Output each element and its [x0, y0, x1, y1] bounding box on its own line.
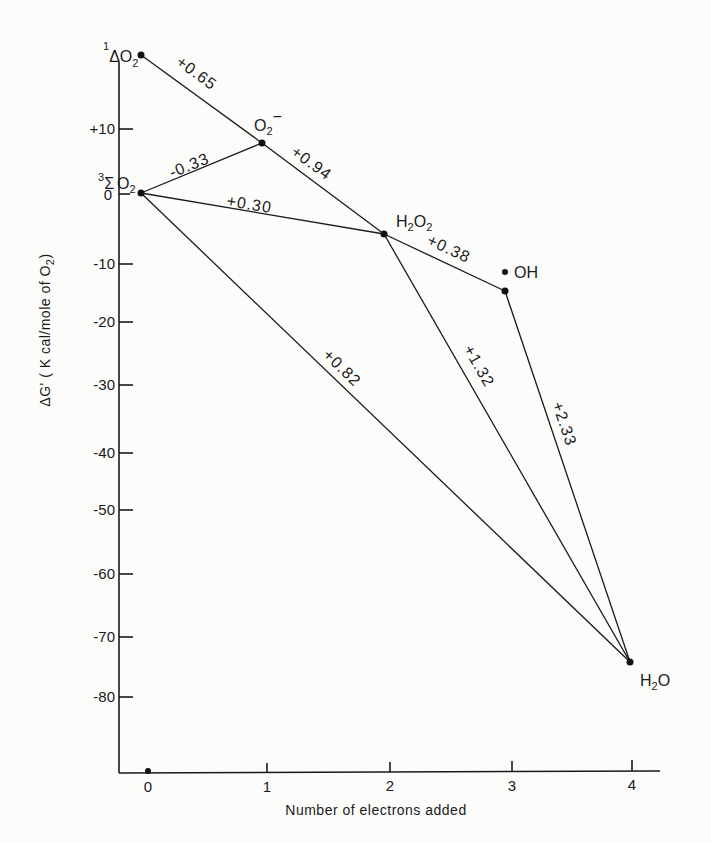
node-h2o — [627, 659, 634, 666]
edge-label-030: +0.30 — [226, 192, 274, 216]
x-tick-labels: 0 1 2 3 4 — [144, 776, 636, 795]
y-tick-label: -40 — [93, 444, 115, 461]
y-tick-label: -10 — [93, 255, 115, 272]
edge-labels: +0.65 -0.33 +0.94 +0.30 +0.38 +0.82 +1.3… — [167, 53, 580, 448]
species-labels: 1ΔO2 3ΣO2 O2− H2O2 OH H2O — [98, 40, 670, 692]
y-ticks — [119, 129, 133, 697]
x-tick-label: 2 — [386, 777, 394, 794]
edge-label-033: -0.33 — [167, 149, 212, 180]
y-axis-title-close: ) — [37, 253, 53, 258]
y-tick-label: -50 — [93, 501, 115, 518]
label-h2o: H2O — [640, 672, 670, 692]
edge-superoxide-to-h2o2 — [262, 143, 384, 234]
label-superoxide: O2− — [254, 108, 282, 137]
y-tick-label: -80 — [93, 688, 115, 705]
y-tick-label: -70 — [93, 628, 115, 645]
label-triplet-o2: 3ΣO2 — [98, 171, 136, 195]
label-oh: OH — [514, 264, 538, 281]
free-energy-diagram: +10 0 -10 -20 -30 -40 -50 -60 -70 -80 0 … — [0, 0, 711, 843]
svg-text:ΔG' ( K cal/mole of O2): ΔG' ( K cal/mole of O2) — [37, 253, 56, 406]
radical-dot — [502, 269, 508, 275]
y-axis-title-main: ΔG' ( K cal/mole of O — [37, 265, 53, 407]
origin-dot — [145, 768, 151, 774]
node-triplet-o2 — [138, 190, 145, 197]
y-axis-title: ΔG' ( K cal/mole of O2) — [37, 253, 56, 406]
y-tick-label: -60 — [93, 565, 115, 582]
edge-label-094: +0.94 — [288, 143, 335, 183]
edge-label-082: +0.82 — [320, 346, 365, 390]
node-singlet-o2 — [138, 52, 145, 59]
node-superoxide — [259, 140, 266, 147]
reaction-edges — [141, 55, 630, 662]
y-tick-label: -30 — [93, 376, 115, 393]
edge-triplet-to-h2o — [141, 193, 630, 662]
y-axis-title-sub: 2 — [44, 258, 56, 265]
x-axis-title: Number of electrons added — [285, 802, 466, 818]
y-tick-labels: +10 0 -10 -20 -30 -40 -50 -60 -70 -80 — [90, 120, 115, 705]
node-h2o2 — [381, 231, 388, 238]
x-tick-label: 0 — [144, 778, 152, 795]
label-h2o2: H2O2 — [396, 213, 432, 233]
edge-label-038: +0.38 — [425, 231, 473, 266]
edge-label-233: +2.33 — [549, 399, 580, 448]
label-singlet-o2: 1ΔO2 — [103, 40, 138, 69]
edge-label-065: +0.65 — [173, 53, 220, 93]
x-tick-label: 3 — [508, 777, 516, 794]
x-tick-label: 4 — [628, 776, 636, 793]
y-tick-label: -20 — [93, 313, 115, 330]
species-nodes — [138, 52, 634, 666]
y-tick-label: +10 — [90, 120, 115, 137]
edge-label-132: +1.32 — [460, 342, 497, 390]
x-tick-label: 1 — [263, 778, 271, 795]
node-oh — [502, 288, 509, 295]
